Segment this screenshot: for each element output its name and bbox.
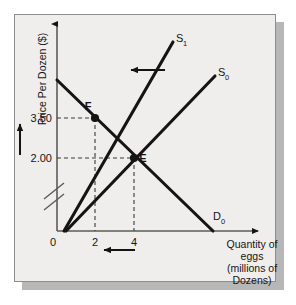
y-tick-label-200: 2.00 — [31, 152, 52, 164]
point-e-marker — [130, 154, 138, 162]
curve-label-s0-subscript: 0 — [225, 73, 229, 82]
y-axis-break-marks — [44, 183, 64, 210]
x-axis-title-line-3: (millions of — [227, 262, 277, 274]
x-axis-title-line-4: Dozens) — [232, 274, 271, 286]
y-axis-title: Price Per Dozen ($) — [36, 33, 48, 125]
curve-label-s0: S 0 — [218, 66, 229, 82]
curve-label-d0: D 0 — [213, 210, 225, 226]
point-label-e: E — [139, 152, 146, 164]
x-tick-label-4: 4 — [131, 236, 137, 248]
curve-label-d0-base: D — [213, 210, 221, 222]
supply-demand-chart: 3.50 2.00 0 2 4 Price Per Dozen ($) Quan… — [0, 0, 296, 305]
x-axis-title: Quantity of eggs (millions of Dozens) — [227, 238, 278, 286]
x-tick-label-0: 0 — [50, 236, 56, 248]
curve-label-s1: S 1 — [176, 32, 187, 48]
x-tick-label-2: 2 — [92, 236, 98, 248]
figure-root: 3.50 2.00 0 2 4 Price Per Dozen ($) Quan… — [0, 0, 296, 305]
curve-label-d0-subscript: 0 — [221, 217, 225, 226]
x-axis-title-line-2: eggs — [241, 250, 264, 262]
x-axis-title-line-1: Quantity of — [227, 238, 278, 250]
point-f-marker — [91, 114, 99, 122]
point-label-f: F — [85, 100, 92, 112]
curve-label-s1-subscript: 1 — [183, 39, 187, 48]
